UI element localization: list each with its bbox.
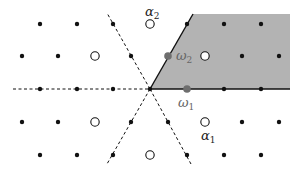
lattice-dot	[75, 22, 79, 26]
omega1-label: ω1	[178, 96, 194, 112]
lattice-dot	[38, 87, 42, 91]
root-open-circle	[201, 118, 209, 126]
omega-1-point	[183, 85, 191, 93]
lattice-dot	[111, 153, 115, 157]
alpha2-label: α2	[145, 5, 160, 21]
omega2-label: ω2	[176, 49, 192, 65]
lattice-dot	[20, 120, 24, 124]
lattice-dot	[259, 153, 263, 157]
lattice-dot	[240, 54, 244, 58]
alpha1-label: α1	[201, 129, 216, 145]
lattice-dot	[240, 120, 244, 124]
lattice-dot	[222, 22, 226, 26]
lattice-dot	[20, 54, 24, 58]
lattice-dot	[259, 87, 263, 91]
weight-lattice-diagram	[0, 0, 305, 175]
lattice-dot	[148, 87, 152, 91]
lattice-dot	[185, 153, 189, 157]
lattice-dot	[129, 120, 133, 124]
root-open-circle	[146, 20, 154, 28]
lattice-dot	[129, 54, 133, 58]
lattice-dot	[277, 54, 281, 58]
lattice-dot	[111, 87, 115, 91]
lattice-dot	[222, 153, 226, 157]
root-open-circle	[91, 118, 99, 126]
lattice-dot	[166, 120, 170, 124]
root-open-circle	[146, 151, 154, 159]
lattice-dot	[111, 22, 115, 26]
lattice-dot	[75, 87, 79, 91]
root-open-circle	[91, 52, 99, 60]
lattice-dot	[38, 153, 42, 157]
lattice-dot	[222, 87, 226, 91]
downleft-dashed-wall	[107, 89, 150, 164]
lattice-dot	[259, 22, 263, 26]
lattice-dot	[56, 120, 60, 124]
root-open-circle	[201, 52, 209, 60]
lattice-dot	[56, 54, 60, 58]
lattice-dot	[277, 120, 281, 124]
lattice-dot	[75, 153, 79, 157]
lattice-dot	[185, 22, 189, 26]
lattice-dot	[38, 22, 42, 26]
omega-2-point	[164, 52, 172, 60]
